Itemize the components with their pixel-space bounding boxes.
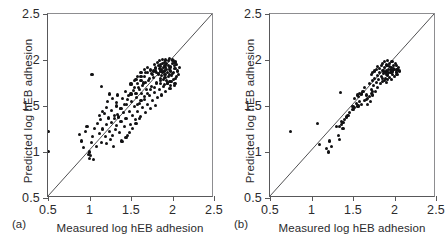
data-point: [172, 78, 175, 81]
data-point: [104, 135, 107, 138]
x-tick-label: 1: [86, 203, 93, 217]
x-tick-mark: [214, 196, 215, 201]
data-point: [365, 93, 368, 96]
x-tick-label: 0.5: [261, 203, 279, 217]
data-point: [85, 125, 88, 128]
x-tick-label: 2: [169, 203, 176, 217]
panel-b-plot-area: [270, 14, 434, 196]
data-point: [129, 92, 132, 95]
data-point: [155, 81, 158, 84]
data-point: [138, 88, 141, 91]
data-point: [128, 110, 131, 113]
y-tick-mark: [265, 60, 270, 61]
y-tick-mark: [265, 106, 270, 107]
data-point: [157, 64, 160, 67]
data-point: [395, 73, 398, 76]
data-point: [146, 103, 149, 106]
y-tick-label: 2: [33, 53, 40, 67]
y-tick-label: 1.5: [22, 99, 40, 113]
y-tick-label: 0.5: [22, 191, 40, 205]
data-point: [346, 114, 349, 117]
data-point: [144, 111, 147, 114]
data-point: [143, 98, 146, 101]
y-tick-mark: [265, 14, 270, 15]
data-point: [360, 103, 363, 106]
data-point: [88, 157, 91, 160]
data-point: [80, 139, 83, 142]
panel-a-plot-frame: 0.511.522.50.511.522.5: [47, 13, 213, 197]
data-point: [176, 69, 179, 72]
data-point: [390, 78, 393, 81]
data-point: [382, 69, 385, 72]
y-tick-label: 2.5: [244, 7, 262, 21]
data-point: [129, 123, 132, 126]
data-point: [115, 104, 118, 107]
data-point: [134, 122, 137, 125]
data-point: [133, 79, 136, 82]
data-point: [330, 145, 333, 148]
data-point: [375, 81, 378, 84]
x-tick-label: 0.5: [39, 203, 57, 217]
x-tick-mark: [270, 196, 271, 201]
y-tick-mark: [43, 106, 48, 107]
data-point: [316, 122, 319, 125]
data-point: [146, 92, 149, 95]
data-point: [390, 69, 393, 72]
data-point: [328, 139, 331, 142]
data-point: [116, 93, 119, 96]
data-point: [119, 120, 122, 123]
data-point: [325, 147, 328, 150]
data-point: [119, 107, 122, 110]
data-point: [90, 73, 93, 76]
data-point: [48, 150, 50, 153]
data-point: [115, 101, 118, 104]
y-tick-mark: [43, 152, 48, 153]
x-tick-label: 1: [308, 203, 315, 217]
data-point: [123, 103, 126, 106]
x-tick-label: 2: [391, 203, 398, 217]
data-point: [149, 107, 152, 110]
data-point: [153, 86, 156, 89]
data-point: [168, 87, 171, 90]
x-tick-mark: [173, 196, 174, 201]
data-point: [178, 66, 181, 69]
data-point: [356, 104, 359, 107]
data-point: [168, 66, 171, 69]
data-point: [123, 125, 126, 128]
data-point: [338, 138, 341, 141]
data-point: [95, 145, 98, 148]
data-point: [160, 93, 163, 96]
panel-a-plot-area: [48, 14, 212, 196]
data-point: [153, 63, 156, 66]
data-point: [339, 91, 342, 94]
data-point: [376, 74, 379, 77]
panel-b-label: (b): [234, 218, 248, 230]
data-point: [369, 100, 372, 103]
panel-a-label: (a): [12, 218, 26, 230]
data-point: [88, 150, 91, 153]
data-point: [93, 127, 96, 130]
data-point: [361, 90, 364, 93]
panel-b-plot-frame: 0.511.522.50.511.522.5: [269, 13, 435, 197]
data-point: [110, 109, 113, 112]
y-tick-mark: [43, 60, 48, 61]
y-tick-label: 1: [33, 145, 40, 159]
y-tick-label: 2.5: [22, 7, 40, 21]
data-point: [327, 150, 330, 153]
y-tick-mark: [265, 152, 270, 153]
data-point: [124, 90, 127, 93]
x-tick-label: 2.5: [205, 203, 223, 217]
panel-a-identity-line: [48, 14, 212, 196]
data-point: [395, 68, 398, 71]
data-point: [101, 127, 104, 130]
x-tick-label: 2.5: [427, 203, 445, 217]
data-point: [117, 115, 120, 118]
data-point: [131, 127, 134, 130]
x-tick-label: 1.5: [122, 203, 140, 217]
x-tick-mark: [395, 196, 396, 201]
x-tick-mark: [131, 196, 132, 201]
data-point: [134, 92, 137, 95]
x-tick-mark: [90, 196, 91, 201]
data-point: [355, 102, 358, 105]
